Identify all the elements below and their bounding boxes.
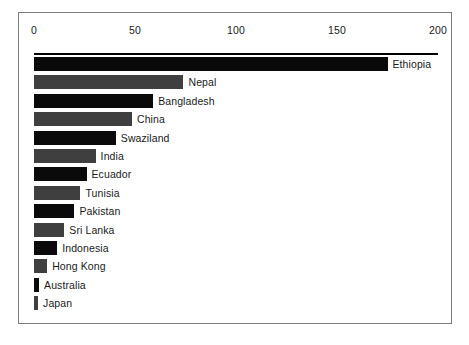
- bar-row: Pakistan: [19, 202, 451, 220]
- bar-label-bangladesh: Bangladesh: [153, 94, 214, 108]
- bar-nepal: [34, 75, 183, 89]
- bar-row: Australia: [19, 276, 451, 294]
- x-tick-label-150: 150: [328, 24, 346, 36]
- bar-row: Ethiopia: [19, 55, 451, 73]
- bar-india: [34, 149, 96, 163]
- bar-tunisia: [34, 186, 80, 200]
- bar-label-sri-lanka: Sri Lanka: [64, 223, 114, 237]
- bar-label-china: China: [132, 112, 165, 126]
- bar-label-nepal: Nepal: [183, 75, 216, 89]
- bar-sri-lanka: [34, 223, 64, 237]
- x-axis: 050100150200: [19, 13, 451, 55]
- bar-hong-kong: [34, 259, 47, 273]
- chart-frame: 050100150200 EthiopiaNepalBangladeshChin…: [18, 12, 452, 324]
- bar-label-swaziland: Swaziland: [116, 131, 170, 145]
- x-tick-label-200: 200: [429, 24, 447, 36]
- bar-china: [34, 112, 132, 126]
- x-tick-label-100: 100: [227, 24, 245, 36]
- bar-indonesia: [34, 241, 57, 255]
- bar-label-japan: Japan: [38, 296, 72, 310]
- bar-label-tunisia: Tunisia: [80, 186, 119, 200]
- bar-row: Tunisia: [19, 184, 451, 202]
- bar-row: Ecuador: [19, 165, 451, 183]
- bar-row: Japan: [19, 294, 451, 312]
- x-tick-label-0: 0: [31, 24, 37, 36]
- bar-label-hong-kong: Hong Kong: [47, 259, 105, 273]
- bar-ecuador: [34, 167, 87, 181]
- bar-row: India: [19, 147, 451, 165]
- bar-ethiopia: [34, 57, 388, 71]
- bar-row: Swaziland: [19, 129, 451, 147]
- x-tick-label-50: 50: [129, 24, 141, 36]
- bar-row: Bangladesh: [19, 92, 451, 110]
- bar-label-ecuador: Ecuador: [87, 167, 132, 181]
- plot-area: EthiopiaNepalBangladeshChinaSwazilandInd…: [19, 55, 451, 323]
- bar-pakistan: [34, 204, 74, 218]
- bar-row: Sri Lanka: [19, 221, 451, 239]
- bar-label-australia: Australia: [39, 278, 86, 292]
- bar-row: Hong Kong: [19, 257, 451, 275]
- bar-swaziland: [34, 131, 116, 145]
- bar-label-india: India: [96, 149, 124, 163]
- bar-bangladesh: [34, 94, 153, 108]
- bar-row: China: [19, 110, 451, 128]
- bar-row: Indonesia: [19, 239, 451, 257]
- bar-label-ethiopia: Ethiopia: [388, 57, 432, 71]
- bar-row: Nepal: [19, 73, 451, 91]
- bar-chart-figure: 050100150200 EthiopiaNepalBangladeshChin…: [0, 0, 469, 345]
- bar-label-pakistan: Pakistan: [74, 204, 120, 218]
- bar-label-indonesia: Indonesia: [57, 241, 108, 255]
